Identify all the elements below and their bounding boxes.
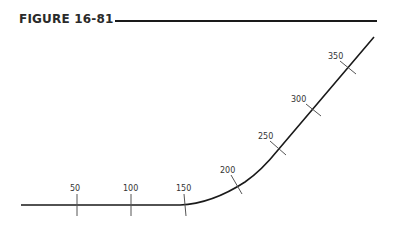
alignment-path [21, 37, 374, 205]
station-label-50: 50 [70, 184, 80, 193]
station-label-350: 350 [328, 52, 343, 61]
station-label-150: 150 [176, 184, 191, 193]
tick-350 [340, 61, 356, 74]
station-label-100: 100 [123, 184, 138, 193]
station-label-200: 200 [220, 166, 235, 175]
station-label-300: 300 [291, 95, 306, 104]
station-label-250: 250 [258, 132, 273, 141]
alignment-diagram: 50 100 150 200 250 300 350 [0, 0, 401, 239]
